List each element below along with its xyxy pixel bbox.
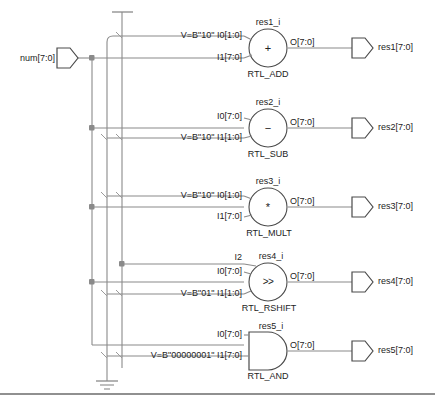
res2-operator-glyph: − <box>256 123 280 134</box>
res4-i1-label: V=B"01" I1[1:0] <box>120 289 242 298</box>
res1-i0-label: V=B"10" I0[1:0] <box>120 31 242 40</box>
res1-port-label: res1[7:0] <box>378 43 413 52</box>
res4-port-shape[interactable] <box>352 272 373 292</box>
gnd-symbol-graphic <box>96 368 118 389</box>
res5-i1-label: V=B"00000001" I1[7:0] <box>108 351 242 360</box>
res5-output-label: O[7:0] <box>290 341 315 350</box>
num-port-label: num[7:0] <box>2 54 55 63</box>
res2-type-label: RTL_SUB <box>232 150 304 159</box>
res5-type-label: RTL_AND <box>232 372 304 381</box>
res4-i0-label: I0[7:0] <box>160 267 242 276</box>
res2-i0-label: I0[7:0] <box>160 112 242 121</box>
res2-i1-label: V=B"10" I1[1:0] <box>120 133 242 142</box>
wire-crossing-marks <box>101 32 122 358</box>
res4-type-label: RTL_RSHIFT <box>226 304 312 313</box>
res3-type-label: RTL_MULT <box>230 229 308 238</box>
res4-i2-label: I2 <box>196 253 242 262</box>
res1-output-label: O[7:0] <box>290 38 315 47</box>
res5-port-shape[interactable] <box>352 341 373 361</box>
res1-i1-label: I1[7:0] <box>160 53 242 62</box>
res4-operator-glyph: >> <box>256 277 280 287</box>
res3-port-shape[interactable] <box>352 197 373 217</box>
res2-port-label: res2[7:0] <box>378 123 413 132</box>
res2-port-shape[interactable] <box>352 118 373 138</box>
res1-instance-label: res1_i <box>235 18 301 27</box>
res4-port-label: res4[7:0] <box>378 277 413 286</box>
res2-output-label: O[7:0] <box>290 118 315 127</box>
res3-instance-label: res3_i <box>235 177 301 186</box>
res3-port-label: res3[7:0] <box>378 202 413 211</box>
res5-i0-label: I0[7:0] <box>162 330 242 339</box>
num-bus-taps <box>92 58 244 345</box>
res3-output-label: O[7:0] <box>290 197 315 206</box>
res4-instance-label: res4_i <box>238 252 304 261</box>
const-riser <box>107 36 244 368</box>
schematic-canvas: num[7:0] res1_i V=B"10" I0[1:0] I1[7:0] … <box>0 0 435 405</box>
res1-port-shape[interactable] <box>352 38 373 58</box>
res1-type-label: RTL_ADD <box>232 70 304 79</box>
res2-instance-label: res2_i <box>235 98 301 107</box>
res5-instance-label: res5_i <box>238 322 304 331</box>
num-port-shape[interactable] <box>57 48 78 68</box>
res5-port-label: res5[7:0] <box>378 346 413 355</box>
vcc-trunk <box>112 12 133 368</box>
res3-operator-glyph: * <box>256 202 280 213</box>
res3-i1-label: I1[7:0] <box>160 212 242 221</box>
res1-operator-glyph: + <box>256 43 280 54</box>
res5-and-gate-symbol <box>249 332 287 370</box>
num-bus <box>78 58 92 345</box>
res3-i0-label: V=B"10" I0[1:0] <box>120 191 242 200</box>
res4-output-label: O[7:0] <box>290 272 315 281</box>
